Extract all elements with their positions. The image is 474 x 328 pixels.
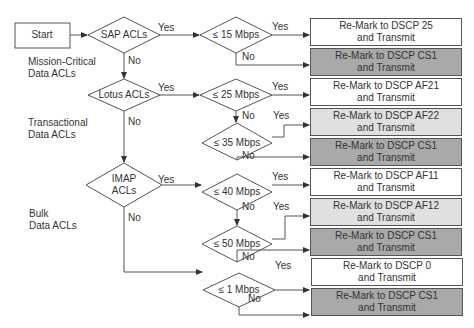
edge-no: No bbox=[242, 150, 255, 162]
action-line: Re-Mark to DSCP AF22 bbox=[333, 110, 439, 122]
action-line: Re-Mark to DSCP 25 bbox=[339, 20, 433, 32]
decision-lotus: Lotus ACLs bbox=[98, 89, 149, 101]
action-line: and Transmit bbox=[357, 122, 415, 134]
action-line: Re-Mark to DSCP CS1 bbox=[335, 50, 437, 62]
action-line: Re-Mark to DSCP CS1 bbox=[335, 230, 437, 242]
edge-yes: Yes bbox=[158, 82, 174, 94]
edge-yes: Yes bbox=[273, 110, 289, 122]
action-dscp-cs1: Re-Mark to DSCP CS1and Transmit bbox=[311, 288, 463, 316]
decision-40mbps: ≤ 40 Mbps bbox=[214, 186, 261, 198]
edge-no: No bbox=[248, 293, 261, 305]
edge-yes: Yes bbox=[158, 22, 174, 34]
category-line: Transactional bbox=[28, 117, 88, 129]
category-line: Data ACLs bbox=[28, 68, 96, 80]
decision-imap-line: ACLs bbox=[112, 185, 136, 197]
action-line: and Transmit bbox=[357, 242, 415, 254]
action-dscp-af12: Re-Mark to DSCP AF12and Transmit bbox=[310, 198, 462, 226]
category-mission-critical: Mission-Critical Data ACLs bbox=[28, 56, 96, 80]
action-dscp-cs1: Re-Mark to DSCP CS1and Transmit bbox=[310, 228, 462, 256]
action-dscp-0: Re-Mark to DSCP 0and Transmit bbox=[311, 258, 463, 286]
category-line: Data ACLs bbox=[29, 220, 77, 232]
action-line: and Transmit bbox=[357, 32, 415, 44]
category-line: Data ACLs bbox=[28, 129, 88, 141]
action-line: Re-Mark to DSCP AF12 bbox=[333, 200, 439, 212]
edge-no: No bbox=[128, 55, 141, 67]
edge-no: No bbox=[128, 212, 141, 224]
decision-sap: SAP ACLs bbox=[101, 29, 148, 41]
action-dscp-cs1: Re-Mark to DSCP CS1and Transmit bbox=[310, 138, 462, 166]
category-line: Bulk bbox=[29, 208, 77, 220]
action-dscp-af21: Re-Mark to DSCP AF21and Transmit bbox=[310, 78, 462, 106]
action-line: and Transmit bbox=[358, 302, 416, 314]
category-bulk: Bulk Data ACLs bbox=[29, 208, 77, 232]
action-dscp-af22: Re-Mark to DSCP AF22and Transmit bbox=[310, 108, 462, 136]
action-line: Re-Mark to DSCP AF11 bbox=[333, 170, 438, 182]
action-line: and Transmit bbox=[357, 92, 415, 104]
action-dscp-af11: Re-Mark to DSCP AF11and Transmit bbox=[310, 168, 462, 196]
action-line: Re-Mark to DSCP CS1 bbox=[336, 290, 438, 302]
edge-yes: Yes bbox=[275, 260, 291, 272]
decision-35mbps: ≤ 35 Mbps bbox=[214, 137, 261, 149]
decision-15mbps: ≤ 15 Mbps bbox=[213, 29, 260, 41]
action-line: Re-Mark to DSCP AF21 bbox=[333, 80, 439, 92]
action-line: Re-Mark to DSCP 0 bbox=[343, 260, 431, 272]
category-transactional: Transactional Data ACLs bbox=[28, 117, 88, 141]
category-line: Mission-Critical bbox=[28, 56, 96, 68]
edge-no: No bbox=[242, 251, 255, 263]
action-line: and Transmit bbox=[357, 152, 415, 164]
edge-no: No bbox=[242, 51, 255, 63]
edge-no: No bbox=[242, 110, 255, 122]
decision-imap-line: IMAP bbox=[112, 173, 136, 185]
edge-yes: Yes bbox=[272, 171, 288, 183]
decision-50mbps: ≤ 50 Mbps bbox=[214, 238, 261, 250]
action-dscp-cs1: Re-Mark to DSCP CS1and Transmit bbox=[310, 48, 462, 76]
decision-25mbps: ≤ 25 Mbps bbox=[213, 89, 260, 101]
action-line: and Transmit bbox=[357, 212, 415, 224]
action-line: Re-Mark to DSCP CS1 bbox=[335, 140, 437, 152]
edge-no: No bbox=[128, 116, 141, 128]
decision-imap: IMAP ACLs bbox=[112, 173, 136, 197]
action-dscp-25: Re-Mark to DSCP 25and Transmit bbox=[310, 18, 462, 46]
edge-yes: Yes bbox=[272, 81, 288, 93]
edge-yes: Yes bbox=[158, 174, 174, 186]
action-line: and Transmit bbox=[358, 272, 416, 284]
edge-yes: Yes bbox=[273, 201, 289, 213]
edge-yes: Yes bbox=[272, 21, 288, 33]
edge-no: No bbox=[242, 201, 255, 213]
action-line: and Transmit bbox=[357, 182, 415, 194]
action-line: and Transmit bbox=[357, 62, 415, 74]
start-label: Start bbox=[31, 29, 52, 41]
